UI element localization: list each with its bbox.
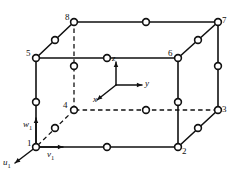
corner-node-6[interactable] xyxy=(175,55,182,62)
mid-side-node-m-3-4[interactable] xyxy=(143,107,150,114)
corner-node-3[interactable] xyxy=(215,107,222,114)
corner-node-4[interactable] xyxy=(71,107,78,114)
axis-y-head xyxy=(137,83,142,88)
dof-arrow-w1-head xyxy=(34,118,39,123)
corner-node-2[interactable] xyxy=(175,144,182,151)
mid-side-node-m-7-8[interactable] xyxy=(143,19,150,26)
node-number-label-8: 8 xyxy=(65,13,70,22)
mid-side-node-m-6-7[interactable] xyxy=(195,37,202,44)
axis-label-z: z xyxy=(112,54,116,63)
mid-side-node-m-1-2[interactable] xyxy=(104,144,111,151)
dof-label-w1: w1 xyxy=(23,120,32,131)
mid-side-node-m-4-8[interactable] xyxy=(71,63,78,70)
mid-side-node-m-2-3[interactable] xyxy=(195,125,202,132)
axis-triad-group xyxy=(97,62,142,100)
node-number-label-7: 7 xyxy=(222,16,227,25)
mid-side-node-m-2-6[interactable] xyxy=(175,99,182,106)
mid-side-node-m-8-5[interactable] xyxy=(52,37,59,44)
dof-arrow-v1-head xyxy=(58,145,63,150)
mid-side-node-m-1-5[interactable] xyxy=(33,99,40,106)
node-number-label-3: 3 xyxy=(222,105,227,114)
hexahedral-element-figure xyxy=(0,0,236,173)
mid-side-node-m-4-1[interactable] xyxy=(52,125,59,132)
dof-label-v1: v1 xyxy=(47,150,54,161)
node-number-label-2: 2 xyxy=(182,147,187,156)
mid-side-node-m-5-6[interactable] xyxy=(104,55,111,62)
node-number-label-6: 6 xyxy=(168,49,173,58)
mid-side-node-m-3-7[interactable] xyxy=(215,63,222,70)
dof-label-u1: u1 xyxy=(3,158,11,169)
corner-node-8[interactable] xyxy=(71,19,78,26)
corner-node-1[interactable] xyxy=(33,144,40,151)
corner-node-7[interactable] xyxy=(215,19,222,26)
node-number-label-4: 4 xyxy=(63,101,68,110)
corner-node-5[interactable] xyxy=(33,55,40,62)
axis-label-x: x xyxy=(93,95,97,104)
node-number-label-5: 5 xyxy=(26,49,31,58)
axis-label-y: y xyxy=(145,79,149,88)
node-number-label-1: 1 xyxy=(27,139,32,148)
